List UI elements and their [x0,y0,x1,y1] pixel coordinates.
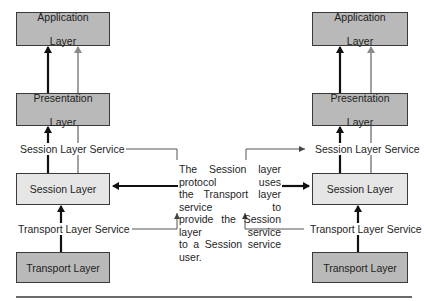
description-line: the Transport layer service to [179,188,281,213]
session-protocol-description: The Session layer protocol uses the Tran… [179,163,281,263]
right-presentation-line1: Presentation [331,92,390,104]
left-presentation-line1: Presentation [34,92,93,104]
right-session-layer-box: Session Layer [312,173,408,205]
left-transport-service-label: Transport Layer Service [16,223,132,235]
right-presentation-line2: Layer [331,116,390,128]
left-presentation-line2: Layer [34,116,93,128]
right-transport-layer-box: Transport Layer [312,252,408,283]
left-session-service-label: Session Layer Service [18,143,126,155]
left-application-line1: Application [37,11,88,23]
right-transport-service-label: Transport Layer Service [308,223,424,235]
description-line: to a Session service user. [179,238,281,263]
right-application-line1: Application [334,11,385,23]
description-line: The Session layer protocol uses [179,163,281,188]
right-application-layer-box: Application Layer [312,12,408,46]
right-transport-label: Transport Layer [323,262,397,274]
left-transport-label: Transport Layer [26,262,100,274]
left-session-layer-box: Session Layer [16,173,110,205]
bottom-divider [16,296,412,298]
left-application-line2: Layer [37,35,88,47]
left-application-layer-box: Application Layer [16,12,110,46]
left-presentation-layer-box: Presentation Layer [16,93,110,126]
left-transport-layer-box: Transport Layer [16,252,110,283]
left-connectors [113,149,178,229]
right-session-service-label: Session Layer Service [313,143,421,155]
right-session-label: Session Layer [327,183,394,195]
right-application-line2: Layer [334,35,385,47]
left-session-label: Session Layer [30,183,97,195]
right-presentation-layer-box: Presentation Layer [312,93,408,126]
description-line: provide the Session layer service [179,213,281,238]
